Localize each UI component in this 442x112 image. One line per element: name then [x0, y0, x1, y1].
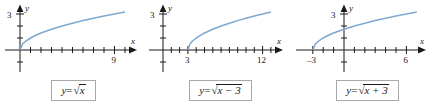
y-tick-label-2: 3: [150, 10, 155, 20]
x-tick-label-3-left: –3: [306, 55, 317, 65]
curve-1: [20, 12, 125, 50]
equation-box-1: y=√x: [51, 80, 95, 101]
plot-area-1: x y 9 3: [0, 0, 147, 78]
equation-wrap-3: y=√x + 3: [294, 80, 441, 101]
radicand-1: x: [79, 84, 86, 96]
equation-box-2: y=√x − 3: [189, 80, 251, 101]
graph-panel-2: x y 3 12 3 y=√x − 3: [147, 0, 294, 112]
y-tick-label-3: 3: [331, 10, 336, 20]
plot-area-3: x y –3 6 3: [294, 0, 441, 78]
x-tick-label-1: 9: [112, 55, 117, 65]
equation-wrap-2: y=√x − 3: [147, 80, 294, 101]
square-root-transformations-figure: x y 9 3 y=√x: [0, 0, 442, 112]
equation-box-3: y=√x + 3: [336, 80, 398, 101]
equation-wrap-1: y=√x: [0, 80, 147, 101]
x-axis-1: [5, 47, 137, 54]
x-tick-label-3-right: 6: [404, 55, 409, 65]
graph-panel-1: x y 9 3 y=√x: [0, 0, 147, 112]
radicand-3: x + 3: [363, 84, 388, 96]
curve-3: [313, 12, 417, 50]
x-tick-label-2-right: 12: [257, 55, 266, 65]
radical-3: √x + 3: [357, 84, 388, 96]
x-axis-label-1: x: [130, 36, 135, 46]
y-axis-label-2: y: [167, 3, 172, 13]
graph-svg-2: x y 3 12 3: [147, 0, 294, 78]
curve-2: [188, 12, 271, 50]
x-axis-label-2: x: [276, 36, 281, 46]
plot-area-2: x y 3 12 3: [147, 0, 294, 78]
radical-2: √x − 3: [210, 84, 241, 96]
radical-1: √x: [73, 84, 86, 96]
x-tick-label-2-left: 3: [185, 55, 190, 65]
y-tick-label-1: 3: [7, 10, 12, 20]
graph-panel-3: x y –3 6 3 y=√x + 3: [294, 0, 441, 112]
y-axis-label-1: y: [24, 3, 29, 13]
radicand-2: x − 3: [216, 84, 241, 96]
y-axis-label-3: y: [348, 3, 353, 13]
graph-svg-3: x y –3 6 3: [294, 0, 441, 78]
x-axis-label-3: x: [419, 36, 424, 46]
graph-svg-1: x y 9 3: [0, 0, 147, 78]
